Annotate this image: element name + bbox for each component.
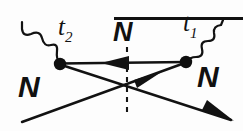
label-t2-base: t	[58, 13, 65, 40]
propagator-arrow-left-icon	[101, 56, 129, 70]
vertex-left-dot	[54, 58, 66, 70]
label-incoming-nucleon: N	[18, 72, 40, 102]
overbar-icon	[114, 17, 243, 20]
wavy-line-left-icon	[22, 22, 60, 64]
label-vertex-left-time: t2	[58, 14, 72, 39]
label-nbar-propagator: N	[113, 19, 243, 46]
label-t2-subscript: 2	[65, 29, 73, 45]
outgoing-nucleon-arrow-icon	[202, 100, 234, 121]
incoming-nucleon-arrow-icon	[134, 71, 163, 88]
incoming-nucleon-line	[22, 63, 186, 123]
label-outgoing-nucleon: N	[197, 62, 219, 92]
label-nbar-text: N	[113, 17, 133, 47]
vertex-right-dot	[180, 56, 192, 68]
feynman-diagram-canvas: t2 t1 N N N	[0, 0, 243, 131]
